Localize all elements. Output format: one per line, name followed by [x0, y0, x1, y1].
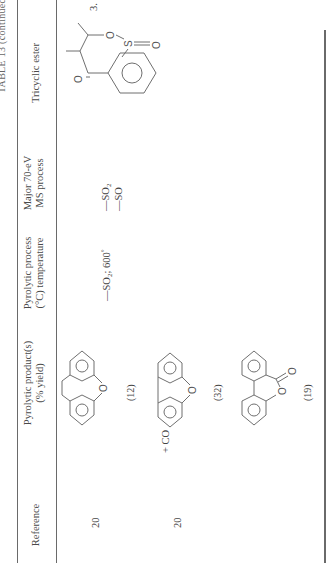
- header-ms-process: Major 70-eV MS process: [22, 138, 46, 228]
- product-xanthone-structure: O: [62, 343, 122, 433]
- pyrolytic-process: —SO2; 600°: [100, 249, 114, 301]
- product-benzocoumarin-yield: (19): [302, 384, 313, 401]
- svg-text:O: O: [187, 386, 198, 394]
- svg-text:O: O: [151, 41, 162, 49]
- pyrolytic-temp: ; 600: [101, 252, 112, 273]
- header-tricyclic-ester: Tricyclic ester: [30, 23, 42, 123]
- svg-text:O: O: [73, 75, 84, 83]
- header-product-line2: (% yield): [34, 323, 46, 443]
- header-pyro-line1: Pyrolytic process: [22, 223, 34, 323]
- header-ms-line2: MS process: [34, 138, 46, 228]
- pyrolytic-temp-unit: °: [100, 249, 108, 252]
- reference-row-1: 20: [90, 518, 101, 529]
- header-reference-label: Reference: [30, 504, 41, 547]
- header-product-line1: Pyrolytic product(s): [22, 323, 34, 443]
- ms-process-2-label: —SO: [113, 187, 124, 211]
- ms-process-1-sub: 2: [105, 184, 113, 188]
- header-pyrolytic-process: Pyrolytic process (°C) temperature: [22, 223, 46, 323]
- rotated-table-page: TABLE 13 (continued) Tricyclic ester Maj…: [0, 0, 326, 563]
- header-ester-label: Tricyclic ester: [30, 43, 41, 103]
- table-title: TABLE 13 (continued): [0, 0, 7, 93]
- svg-text:O: O: [277, 387, 288, 395]
- header-pyrolytic-products: Pyrolytic product(s) (% yield): [22, 323, 46, 443]
- header-ms-line1: Major 70-eV: [22, 138, 34, 228]
- ms-process-so: —SO: [113, 187, 124, 211]
- tricyclic-ester-structure: O O S O O: [60, 13, 180, 123]
- product-dibenzofuran-yield: (32): [212, 384, 223, 401]
- top-rule: [17, 0, 18, 563]
- reference-row-2: 20: [172, 518, 183, 529]
- svg-text:O: O: [98, 384, 109, 392]
- product-dibenzofuran-extra: + CO: [160, 430, 171, 453]
- header-pyro-line2: (°C) temperature: [34, 223, 46, 323]
- pyrolytic-process-label: —SO: [101, 277, 112, 301]
- bottom-rule: [324, 30, 326, 563]
- svg-text:O: O: [105, 31, 116, 39]
- ms-process-so2: —SO2: [100, 184, 113, 211]
- product-xanthone-yield: (12): [125, 384, 136, 401]
- svg-text:S: S: [123, 40, 134, 47]
- pyrolytic-process-sub: 2: [106, 274, 114, 278]
- product-dibenzofuran-structure: O: [150, 340, 210, 435]
- header-rule: [56, 0, 57, 563]
- ms-process-1-label: —SO: [100, 187, 111, 211]
- svg-text:O: O: [287, 367, 298, 375]
- product-benzocoumarin-structure: O O: [232, 343, 302, 433]
- entry-number: 3.: [88, 3, 99, 11]
- header-reference: Reference: [30, 495, 42, 555]
